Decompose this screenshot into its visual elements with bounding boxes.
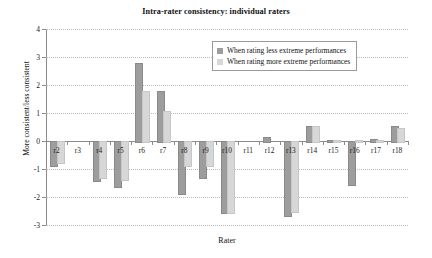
- x-tick-label: r15: [329, 146, 339, 155]
- gridline: [46, 113, 408, 114]
- x-tick-mark: [408, 141, 409, 145]
- bar: [163, 111, 171, 143]
- bar: [397, 128, 405, 143]
- x-tick-mark: [216, 141, 217, 145]
- bar: [355, 140, 363, 143]
- y-tick-label: 2: [36, 81, 40, 90]
- x-tick-mark: [67, 141, 68, 145]
- x-axis-label: Rater: [46, 236, 408, 245]
- legend-item: When rating more extreme performances: [217, 56, 350, 67]
- y-tick-mark: [42, 57, 46, 58]
- x-tick-mark: [259, 141, 260, 145]
- x-tick-label: r11: [243, 146, 253, 155]
- x-tick-mark: [344, 141, 345, 145]
- y-tick-mark: [42, 169, 46, 170]
- chart-title: Intra-rater consistency: individual rate…: [0, 7, 432, 16]
- bar: [376, 140, 384, 143]
- x-tick-mark: [89, 141, 90, 145]
- y-axis-label: More consistent/less consistent: [22, 39, 31, 179]
- x-tick-mark: [174, 141, 175, 145]
- x-tick-label: r18: [392, 146, 402, 155]
- legend-swatch-icon: [217, 59, 223, 65]
- x-tick-label: r14: [307, 146, 317, 155]
- x-tick-label: r5: [117, 146, 123, 155]
- y-tick-label: -3: [34, 221, 40, 230]
- x-tick-mark: [195, 141, 196, 145]
- gridline: [46, 29, 408, 30]
- x-tick-label: r6: [139, 146, 145, 155]
- y-tick-mark: [42, 113, 46, 114]
- y-tick-label: 4: [36, 25, 40, 34]
- legend-swatch-icon: [217, 48, 223, 54]
- x-tick-mark: [280, 141, 281, 145]
- gridline: [46, 85, 408, 86]
- y-tick-label: 3: [36, 53, 40, 62]
- legend-label: When rating more extreme performances: [227, 57, 350, 66]
- bar: [312, 126, 320, 143]
- x-tick-label: r17: [371, 146, 381, 155]
- y-tick-mark: [42, 29, 46, 30]
- y-tick-label: -1: [34, 165, 40, 174]
- x-tick-mark: [387, 141, 388, 145]
- x-tick-label: r12: [265, 146, 275, 155]
- x-tick-mark: [46, 141, 47, 145]
- x-tick-mark: [131, 141, 132, 145]
- x-tick-label: r13: [286, 146, 296, 155]
- x-tick-mark: [152, 141, 153, 145]
- legend-label: When rating less extreme performances: [227, 46, 346, 55]
- x-tick-label: r4: [96, 146, 102, 155]
- chart-container: Intra-rater consistency: individual rate…: [0, 0, 432, 258]
- x-tick-mark: [302, 141, 303, 145]
- x-tick-label: r7: [160, 146, 166, 155]
- y-tick-label: -2: [34, 193, 40, 202]
- bar: [263, 137, 271, 143]
- x-tick-mark: [365, 141, 366, 145]
- x-tick-mark: [110, 141, 111, 145]
- x-tick-label: r9: [203, 146, 209, 155]
- y-axis-line: [46, 29, 47, 225]
- legend-item: When rating less extreme performances: [217, 45, 350, 56]
- y-tick-label: 0: [36, 137, 40, 146]
- y-tick-mark: [42, 197, 46, 198]
- y-tick-mark: [42, 225, 46, 226]
- x-tick-label: r16: [350, 146, 360, 155]
- x-tick-label: r3: [75, 146, 81, 155]
- y-tick-mark: [42, 85, 46, 86]
- y-tick-label: 1: [36, 109, 40, 118]
- x-tick-label: r8: [181, 146, 187, 155]
- chart-legend: When rating less extreme performances Wh…: [212, 41, 357, 71]
- x-tick-label: r10: [222, 146, 232, 155]
- bar: [333, 140, 341, 143]
- gridline: [46, 225, 408, 226]
- x-tick-label: r2: [54, 146, 60, 155]
- x-tick-mark: [323, 141, 324, 145]
- x-tick-mark: [238, 141, 239, 145]
- bar: [142, 91, 150, 143]
